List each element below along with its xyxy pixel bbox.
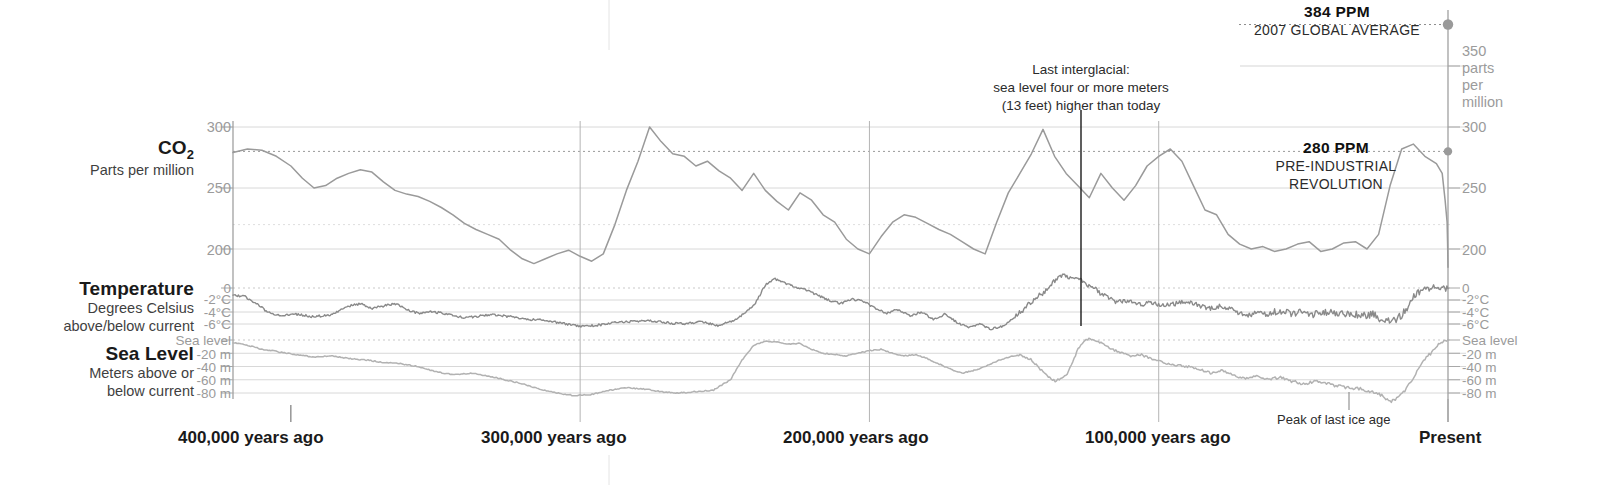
right-tick-sea-0: Sea level: [1462, 334, 1518, 348]
right-tick-co2-million: million: [1462, 95, 1503, 110]
x-axis-label-400k: 400,000 years ago: [178, 428, 324, 448]
right-tick-co2-200: 200: [1462, 243, 1486, 258]
right-tick-co2-350: 350: [1462, 44, 1486, 59]
left-tick-sea-80: -80 m: [151, 387, 231, 401]
co2-title-subscript: 2: [187, 147, 194, 162]
x-axis-label-100k: 100,000 years ago: [1085, 428, 1231, 448]
right-tick-co2-per: per: [1462, 78, 1483, 93]
co2-384-value: 384 PPM: [1227, 2, 1447, 22]
co2-title: CO: [158, 137, 187, 158]
last-interglacial-line3: (13 feet) higher than today: [901, 97, 1261, 115]
co2-280-value: 280 PPM: [1236, 138, 1436, 158]
right-tick-sea-80: -80 m: [1462, 387, 1497, 401]
last-interglacial-line1: Last interglacial:: [901, 61, 1261, 79]
left-tick-co2-200: 200: [171, 243, 231, 258]
right-tick-co2-300: 300: [1462, 120, 1486, 135]
co2-280-description-line1: PRE-INDUSTRIAL: [1236, 158, 1436, 176]
co2-384-description: 2007 GLOBAL AVERAGE: [1227, 22, 1447, 40]
x-axis-label-200k: 200,000 years ago: [783, 428, 929, 448]
left-tick-co2-300: 300: [171, 120, 231, 135]
temperature-series-line: [233, 274, 1448, 330]
right-tick-co2-parts: parts: [1462, 61, 1494, 76]
left-tick-co2-250: 250: [171, 181, 231, 196]
co2-280-description-line2: REVOLUTION: [1236, 176, 1436, 194]
right-tick-co2-250: 250: [1462, 181, 1486, 196]
co2-384-callout: 384 PPM 2007 GLOBAL AVERAGE: [1227, 2, 1447, 40]
co2-row-title: CO2 Parts per million: [0, 137, 194, 179]
co2-subtitle: Parts per million: [0, 162, 194, 179]
climate-chart-figure: CO2 Parts per million Temperature Degree…: [0, 0, 1597, 485]
co2-preindustrial-marker-dot: [1444, 147, 1452, 155]
left-tick-temp-6: -6°C: [161, 318, 231, 332]
x-axis-label-300k: 300,000 years ago: [481, 428, 627, 448]
co2-280-callout: 280 PPM PRE-INDUSTRIAL REVOLUTION: [1236, 138, 1436, 194]
right-tick-temp-6: -6°C: [1462, 318, 1489, 332]
left-tick-sea-0: Sea level: [131, 334, 231, 348]
last-interglacial-annotation: Last interglacial: sea level four or mor…: [901, 61, 1261, 114]
x-axis-label-present: Present: [1419, 428, 1481, 448]
peak-ice-age-annotation: Peak of last ice age: [1277, 412, 1390, 427]
last-interglacial-line2: sea level four or more meters: [901, 79, 1261, 97]
